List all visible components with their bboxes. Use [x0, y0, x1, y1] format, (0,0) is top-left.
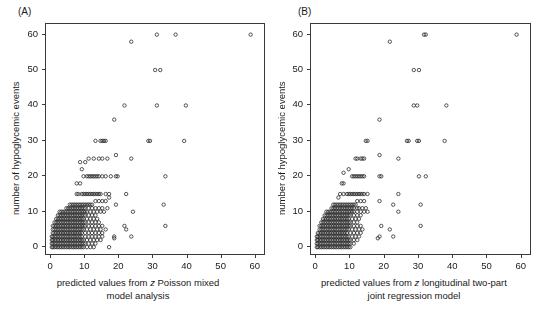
y-tick-mark: [42, 104, 45, 105]
y-tick-mark: [42, 140, 45, 141]
y-tick-mark: [42, 211, 45, 212]
y-tick-label: 50: [16, 63, 38, 74]
panel-b-plot-frame: [310, 23, 531, 255]
panel-a-plot-frame: [45, 23, 265, 255]
x-tick-mark: [349, 255, 350, 258]
x-tick-mark: [152, 255, 153, 258]
panel-a-xlabel-post: Poisson mixed: [155, 277, 219, 288]
y-tick-mark: [42, 69, 45, 70]
panel-b-scatter-canvas: [311, 24, 532, 256]
x-tick-mark: [521, 255, 522, 258]
x-tick-label: 50: [476, 260, 496, 271]
y-tick-label: 20: [16, 169, 38, 180]
y-tick-label: 10: [281, 205, 303, 216]
y-tick-label: 20: [281, 169, 303, 180]
x-tick-label: 40: [442, 260, 462, 271]
panel-b-xlabel-post: longitudinal two-part: [419, 277, 507, 288]
x-tick-mark: [84, 255, 85, 258]
y-tick-mark: [307, 69, 310, 70]
panel-b-xlabel-line2: joint regression model: [276, 289, 552, 302]
panel-a-scatter-canvas: [46, 24, 266, 256]
y-tick-label: 0: [16, 240, 38, 251]
y-tick-mark: [42, 175, 45, 176]
y-tick-mark: [42, 246, 45, 247]
y-tick-mark: [307, 140, 310, 141]
x-tick-mark: [452, 255, 453, 258]
x-tick-mark: [50, 255, 51, 258]
x-tick-label: 20: [374, 260, 394, 271]
x-tick-mark: [315, 255, 316, 258]
x-tick-label: 60: [245, 260, 265, 271]
x-tick-mark: [384, 255, 385, 258]
y-tick-mark: [42, 34, 45, 35]
figure-container: (A) number of hypoglycemic events predic…: [0, 0, 552, 311]
x-tick-mark: [187, 255, 188, 258]
x-tick-mark: [486, 255, 487, 258]
panel-a: (A) number of hypoglycemic events predic…: [0, 0, 276, 311]
panel-b-xlabel-pre: predicted values from: [321, 277, 414, 288]
y-tick-label: 40: [16, 98, 38, 109]
panel-a-label: (A): [18, 6, 31, 17]
panel-a-x-axis-label: predicted values from z Poisson mixed mo…: [0, 276, 276, 302]
x-tick-mark: [118, 255, 119, 258]
x-tick-label: 40: [177, 260, 197, 271]
x-tick-mark: [255, 255, 256, 258]
x-tick-label: 30: [408, 260, 428, 271]
panel-a-xlabel-line2: model analysis: [0, 289, 276, 302]
y-tick-mark: [307, 104, 310, 105]
y-tick-mark: [307, 175, 310, 176]
panel-b-label: (B): [298, 6, 311, 17]
x-tick-label: 0: [40, 260, 60, 271]
y-tick-label: 30: [281, 134, 303, 145]
x-tick-label: 60: [511, 260, 531, 271]
panel-b-x-axis-label: predicted values from z longitudinal two…: [276, 276, 552, 302]
y-tick-label: 60: [281, 28, 303, 39]
y-tick-label: 40: [281, 98, 303, 109]
x-tick-mark: [221, 255, 222, 258]
x-tick-label: 30: [142, 260, 162, 271]
y-tick-label: 30: [16, 134, 38, 145]
panel-a-xlabel-pre: predicted values from: [57, 277, 150, 288]
y-tick-label: 50: [281, 63, 303, 74]
y-tick-mark: [307, 211, 310, 212]
x-tick-label: 50: [211, 260, 231, 271]
y-tick-mark: [307, 246, 310, 247]
y-tick-mark: [307, 34, 310, 35]
y-tick-label: 0: [281, 240, 303, 251]
y-tick-label: 60: [16, 28, 38, 39]
x-tick-label: 0: [305, 260, 325, 271]
x-tick-label: 10: [74, 260, 94, 271]
x-tick-label: 10: [339, 260, 359, 271]
panel-b: (B) number of hypoglycemic events predic…: [276, 0, 552, 311]
y-tick-label: 10: [16, 205, 38, 216]
x-tick-mark: [418, 255, 419, 258]
x-tick-label: 20: [108, 260, 128, 271]
